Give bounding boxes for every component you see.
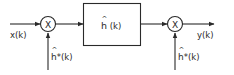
multiplier-1-side-label: ^ h*(k)	[51, 46, 73, 62]
input-label: x(k)	[10, 30, 27, 40]
svg-text:h (k): h (k)	[101, 20, 121, 31]
svg-text:h*(k): h*(k)	[178, 52, 200, 62]
multiplier-2-side-label: ^ h*(k)	[178, 46, 200, 62]
multiplier-1: X	[41, 17, 56, 32]
multiply-icon: X	[45, 20, 51, 30]
multiply-icon: X	[172, 20, 178, 30]
block-diagram: x(k) X ^ h*(k) ^ h (k) X ^ h*(k)	[0, 0, 234, 75]
output-label: y(k)	[197, 30, 214, 40]
svg-text:h*(k): h*(k)	[51, 52, 73, 62]
multiplier-2: X	[168, 17, 183, 32]
